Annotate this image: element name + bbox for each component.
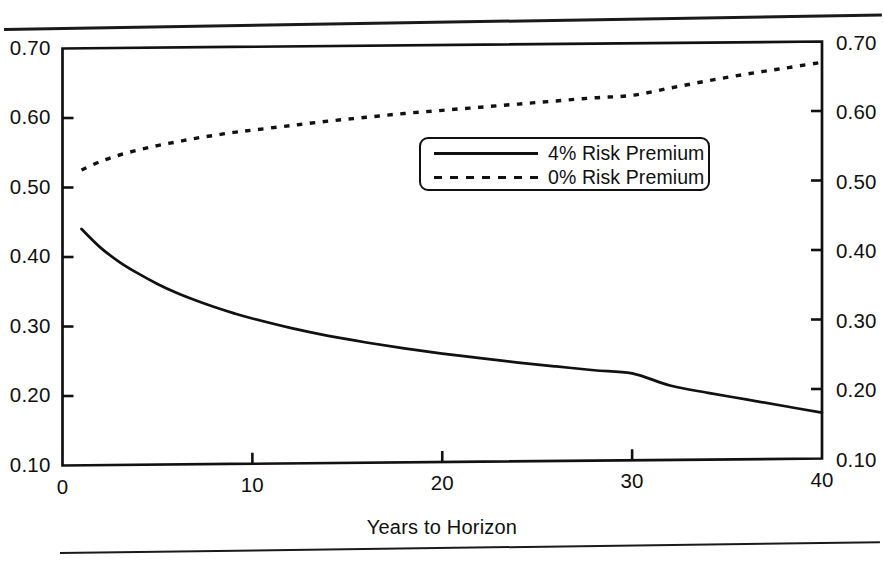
y-tick-label-left: 0.60 — [10, 105, 51, 129]
y-tick-label-right: 0.30 — [836, 309, 877, 333]
y-tick-label-right: 0.50 — [836, 170, 877, 194]
y-tick-label-left: 0.20 — [10, 383, 51, 407]
x-axis-title: Years to Horizon — [0, 516, 884, 539]
plot-frame — [63, 42, 823, 466]
series-line-1 — [81, 229, 822, 413]
x-tick-label: 30 — [592, 469, 672, 493]
y-tick-label-right: 0.40 — [836, 239, 877, 263]
y-tick-label-right: 0.70 — [836, 31, 877, 55]
y-tick-label-left: 0.30 — [10, 314, 51, 338]
y-tick-label-left: 0.50 — [10, 175, 51, 199]
chart-legend: 4% Risk Premium 0% Risk Premium — [419, 137, 710, 191]
y-tick-label-right: 0.20 — [836, 378, 877, 402]
legend-label-0-percent: 0% Risk Premium — [548, 166, 704, 189]
x-tick-label: 20 — [402, 471, 482, 495]
legend-swatch-solid — [434, 146, 538, 160]
legend-item-4-percent: 4% Risk Premium — [421, 141, 708, 165]
chart-plot-area: 0.100.200.300.400.500.600.70 0.100.200.3… — [0, 0, 884, 561]
x-tick-label: 0 — [23, 475, 103, 499]
y-tick-label-left: 0.40 — [10, 244, 51, 268]
data-series — [81, 62, 822, 412]
legend-swatch-dashed — [434, 170, 538, 184]
y-tick-label-left: 0.10 — [10, 453, 51, 477]
figure-page: 0.100.200.300.400.500.600.70 0.100.200.3… — [0, 0, 884, 561]
x-tick-label: 10 — [212, 473, 292, 497]
legend-label-4-percent: 4% Risk Premium — [548, 142, 704, 165]
y-tick-label-right: 0.60 — [836, 100, 877, 124]
x-tick-label: 40 — [782, 468, 862, 492]
y-tick-label-left: 0.70 — [10, 36, 51, 60]
legend-item-0-percent: 0% Risk Premium — [421, 165, 708, 189]
